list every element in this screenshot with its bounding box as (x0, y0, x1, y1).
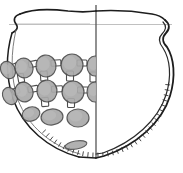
hatch-tick (164, 95, 168, 96)
boss-highlight (88, 84, 98, 96)
bosses-group (0, 54, 103, 127)
rim-level-guide (9, 24, 172, 25)
applied-decoration-group (0, 54, 103, 151)
middle-boss-row (0, 79, 103, 107)
vessel-illustration (0, 0, 183, 173)
lower-boss-row (20, 105, 89, 127)
pottery-drawing-figure (0, 0, 183, 173)
hatch-tick (112, 151, 113, 155)
boss-highlight (69, 110, 83, 121)
right-section-profile (96, 11, 174, 158)
hatch-tick (54, 140, 56, 143)
applied-boss (64, 139, 87, 151)
hatch-tick (50, 137, 52, 140)
hatch-tick (165, 90, 169, 91)
upper-boss-row (0, 54, 103, 82)
hatch-tick (160, 110, 164, 112)
lower-isolated-boss (64, 139, 87, 151)
hatch-tick (83, 152, 84, 156)
boss-highlight (64, 83, 78, 97)
boss-highlight (88, 58, 98, 70)
boss-highlight (63, 56, 77, 70)
hatch-tick (43, 130, 46, 133)
hatch-tick (46, 134, 49, 137)
